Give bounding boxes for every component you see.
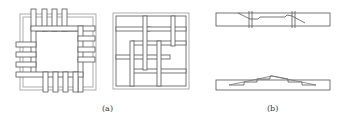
scarf-joint-beam-diagram — [216, 11, 330, 28]
stepped-pitched-beam-diagram — [216, 76, 330, 90]
panel-label-a: (a) — [102, 104, 113, 113]
panel-label-b: (b) — [267, 104, 278, 113]
woven-lattice-diagram — [113, 13, 189, 89]
pinwheel-square-diagram — [16, 9, 96, 92]
diagram-canvas — [0, 0, 344, 123]
